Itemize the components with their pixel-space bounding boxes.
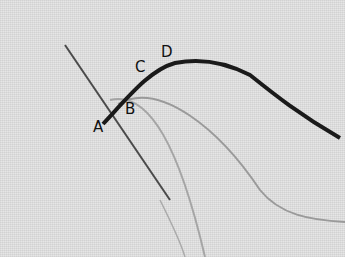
label-c: C (135, 60, 145, 75)
loose-thread-1 (118, 98, 345, 222)
label-a: A (93, 120, 103, 135)
loose-thread-2 (110, 99, 205, 257)
loose-thread-3 (160, 200, 185, 257)
label-b: B (125, 102, 135, 117)
stitch-illustration (0, 0, 345, 257)
label-d: D (161, 45, 173, 60)
embroidery-photo: A B C D (0, 0, 345, 257)
